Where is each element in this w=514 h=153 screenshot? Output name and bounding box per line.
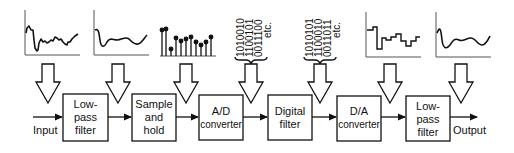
block-label: pass xyxy=(416,113,440,125)
hollow-down-arrow-icon xyxy=(174,64,198,103)
bitstream-etc: etc. xyxy=(331,22,342,38)
block-label: converter xyxy=(200,119,242,130)
bitstream-adc-out: 1010010 1100101 0011100 etc. xyxy=(235,18,273,64)
waveform-reconstructed xyxy=(436,12,491,57)
block-label: filter xyxy=(418,126,439,138)
hollow-down-arrow-icon xyxy=(449,64,473,103)
waveform-dac-output xyxy=(366,12,421,57)
waveform-filtered xyxy=(94,10,149,55)
waveform-sampled xyxy=(160,27,216,56)
block-label: Digital xyxy=(275,105,306,117)
hollow-down-arrow-icon xyxy=(106,64,130,103)
block-label: A/D xyxy=(212,105,230,117)
block-label: Low- xyxy=(74,98,98,110)
curly-brace-icon xyxy=(304,57,336,64)
curly-brace-icon xyxy=(235,57,267,64)
block-label: and xyxy=(145,111,163,123)
dsp-block-diagram: 1010010 1100101 0011100 etc. 1010101 110… xyxy=(0,0,514,153)
block-label: pass xyxy=(74,111,98,123)
waveform-raw-input xyxy=(25,10,80,55)
bitstream-etc: etc. xyxy=(262,22,273,38)
output-label: Output xyxy=(453,124,486,136)
block-label: converter xyxy=(338,119,380,130)
input-label: Input xyxy=(33,124,57,136)
bitstream-dsp-out: 1010101 1100010 0011011 etc. xyxy=(304,18,342,64)
block-label: Sample xyxy=(135,98,172,110)
block-label: Low- xyxy=(416,100,440,112)
block-label: filter xyxy=(75,124,96,136)
block-ad-converter xyxy=(199,95,243,140)
block-label: hold xyxy=(144,124,165,136)
block-label: D/A xyxy=(350,105,369,117)
hollow-down-arrow-icon xyxy=(36,64,60,103)
block-label: filter xyxy=(280,118,301,130)
